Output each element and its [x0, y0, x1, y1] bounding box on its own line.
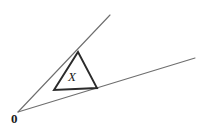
vertex-label: 0	[11, 112, 18, 125]
region-label-x: X	[68, 70, 76, 83]
figure-canvas	[0, 0, 209, 132]
lower-ray-line	[18, 58, 195, 112]
geometry-figure: 0 X	[0, 0, 209, 132]
